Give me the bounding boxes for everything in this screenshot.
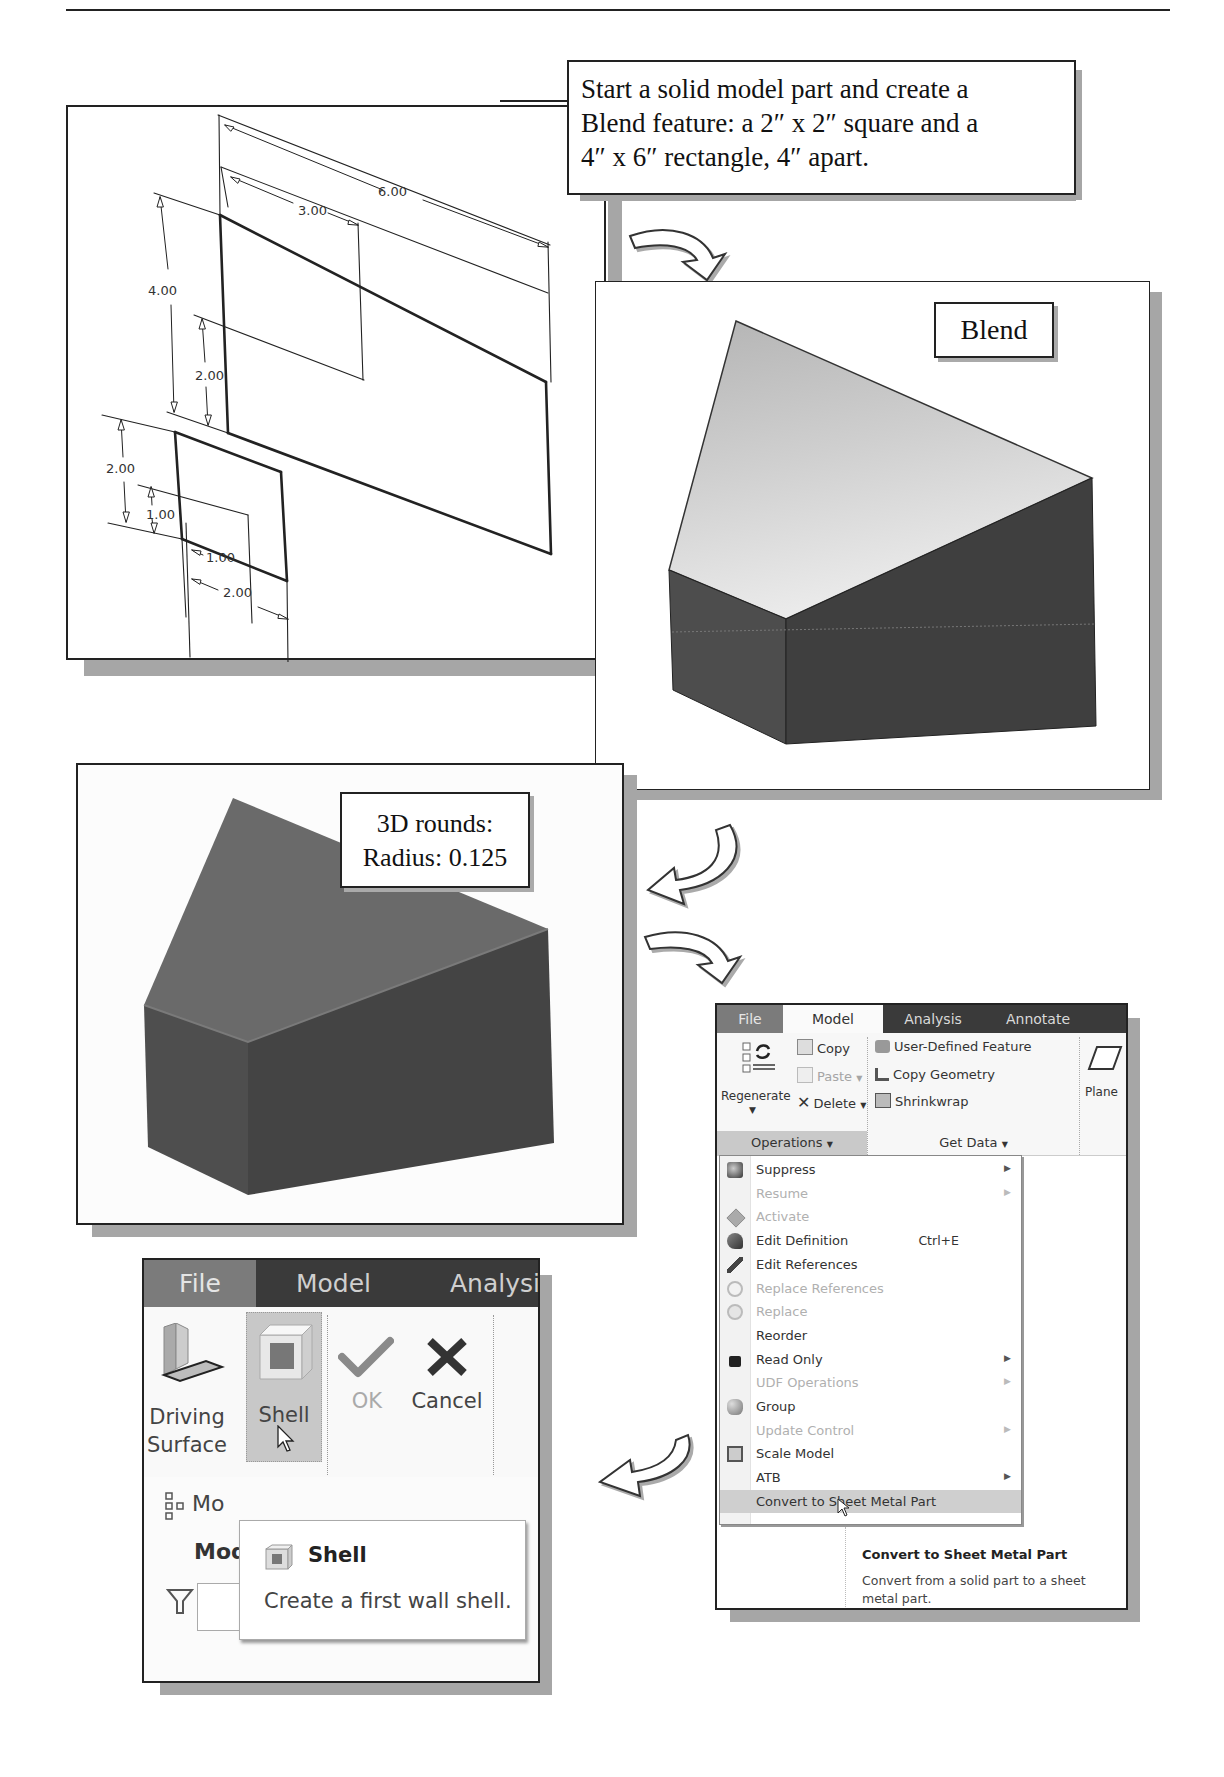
ribbon-screenshot: File Model Analysis Annotate Regenerate … (715, 1003, 1128, 1610)
menu-item-reorder[interactable]: Reorder (720, 1324, 1021, 1348)
driving-surface-button[interactable]: Driving Surface (148, 1313, 236, 1473)
edit-references-icon (727, 1257, 743, 1273)
tab-analysis[interactable]: Analysis (883, 1005, 983, 1033)
panel-shadow (730, 1608, 1140, 1622)
menu-item-replace[interactable]: Replace (720, 1300, 1021, 1324)
submenu-arrow-icon: ▶ (1004, 1187, 1011, 1197)
flow-arrow-icon (625, 222, 745, 288)
menu-item-replace-references[interactable]: Replace References (720, 1277, 1021, 1301)
activate-icon (726, 1209, 745, 1228)
tooltip-title: Convert to Sheet Metal Part (862, 1547, 1067, 1562)
menu-item-edit-references[interactable]: Edit References (720, 1253, 1021, 1277)
menu-item-update-control[interactable]: Update Control▶ (720, 1419, 1021, 1443)
tab-file[interactable]: File (717, 1005, 783, 1033)
plane-button[interactable]: Plane (1081, 1037, 1127, 1127)
menu-item-label: Resume (756, 1186, 808, 1201)
tab-model[interactable]: Model (783, 1005, 883, 1033)
lock-icon (729, 1356, 741, 1367)
menu-item-resume[interactable]: Resume▶ (720, 1182, 1021, 1206)
blend-label: Blend (936, 304, 1052, 356)
paste-button[interactable]: Paste ▼ (797, 1067, 862, 1084)
menu-item-label: Replace References (756, 1281, 884, 1296)
shrinkwrap-button[interactable]: Shrinkwrap (875, 1093, 968, 1109)
mouse-cursor-icon (277, 1425, 297, 1453)
menu-item-udf-operations[interactable]: UDF Operations▶ (720, 1371, 1021, 1395)
copy-geometry-label: Copy Geometry (893, 1067, 995, 1082)
menu-item-convert-to-sheet-metal-part[interactable]: Convert to Sheet Metal Part (720, 1490, 1021, 1514)
step1-callout: Start a solid model part and create a Bl… (567, 60, 1076, 195)
submenu-arrow-icon: ▶ (1004, 1376, 1011, 1386)
get-data-group-dropdown[interactable]: Get Data ▼ (868, 1131, 1079, 1155)
panel-shadow (608, 198, 622, 282)
copy-button[interactable]: Copy (797, 1039, 850, 1056)
tab-annotate[interactable]: Annotate (983, 1005, 1093, 1033)
tab-analysis[interactable]: Analysi (450, 1260, 540, 1307)
flow-arrow-icon (640, 925, 760, 995)
model-tree-tab[interactable]: Mo (192, 1491, 224, 1516)
menu-item-label: Update Control (756, 1423, 854, 1438)
shell-icon (256, 1321, 316, 1383)
user-defined-feature-icon (875, 1040, 890, 1053)
regenerate-dropdown-icon[interactable]: ▼ (749, 1105, 756, 1115)
convert-sheet-metal-tooltip: Convert to Sheet Metal Part Convert from… (845, 1527, 1128, 1609)
tooltip-title: Shell (308, 1543, 367, 1567)
group-divider (327, 1315, 328, 1475)
svg-text:2.00: 2.00 (106, 461, 135, 476)
model-tree-icon (164, 1491, 186, 1521)
edit-definition-icon (727, 1233, 743, 1249)
shell-button[interactable]: Shell (246, 1312, 322, 1462)
suppress-icon (727, 1162, 743, 1178)
group-divider (493, 1315, 494, 1475)
shrinkwrap-icon (875, 1093, 891, 1108)
shortcut-label: Ctrl+E (918, 1233, 959, 1248)
tab-file[interactable]: File (144, 1260, 256, 1307)
menu-item-label: UDF Operations (756, 1375, 859, 1390)
operations-group-label: Operations (751, 1135, 822, 1150)
menu-item-label: Edit References (756, 1257, 858, 1272)
close-icon (424, 1335, 470, 1379)
tab-model[interactable]: Model (296, 1260, 371, 1307)
filter-icon (166, 1587, 196, 1617)
operations-menu: Suppress▶ Resume▶ Activate Edit Definiti… (719, 1155, 1022, 1525)
copy-geometry-icon (875, 1068, 889, 1081)
svg-text:1.00: 1.00 (206, 550, 235, 565)
rounds-panel: 3D rounds: Radius: 0.125 (76, 763, 624, 1225)
step1-callout-line: Blend feature: a 2″ x 2″ square and a (581, 106, 978, 140)
delete-button[interactable]: ✕Delete ▼ (797, 1093, 866, 1112)
menu-item-suppress[interactable]: Suppress▶ (720, 1158, 1021, 1182)
checkmark-icon (338, 1335, 394, 1379)
menu-item-edit-definition[interactable]: Edit DefinitionCtrl+E (720, 1229, 1021, 1253)
menu-item-scale-model[interactable]: Scale Model (720, 1442, 1021, 1466)
copy-label: Copy (817, 1041, 850, 1056)
driving-surface-label: Surface (146, 1431, 228, 1459)
shrinkwrap-label: Shrinkwrap (895, 1094, 968, 1109)
replace-icon (727, 1304, 743, 1320)
panel-shadow (538, 1275, 552, 1695)
menu-item-read-only[interactable]: Read Only▶ (720, 1348, 1021, 1372)
regenerate-button[interactable]: Regenerate ▼ (721, 1037, 791, 1127)
regenerate-icon (741, 1041, 781, 1077)
submenu-arrow-icon: ▶ (1004, 1424, 1011, 1434)
copy-geometry-button[interactable]: Copy Geometry (875, 1067, 995, 1082)
mouse-cursor-icon (837, 1498, 851, 1518)
operations-group-dropdown[interactable]: Operations ▼ (717, 1131, 867, 1155)
blend-sketch-drawing: 6.00 3.00 4.00 2.00 2.00 1.00 1.00 2.00 (68, 107, 608, 662)
ok-button[interactable]: OK (332, 1315, 402, 1465)
chevron-down-icon: ▼ (827, 1140, 833, 1149)
rounds-label-line: Radius: 0.125 (342, 841, 528, 875)
shell-ribbon-tab-bar: File Model Analysi (144, 1260, 538, 1307)
cancel-button[interactable]: Cancel (402, 1315, 492, 1465)
user-defined-feature-button[interactable]: User-Defined Feature (875, 1039, 1031, 1054)
menu-item-group[interactable]: Group (720, 1395, 1021, 1419)
replace-references-icon (727, 1281, 743, 1297)
copy-icon (797, 1039, 813, 1055)
shell-ribbon-screenshot: File Model Analysi Driving Surface (142, 1258, 540, 1683)
menu-item-label: ATB (756, 1470, 781, 1485)
svg-text:3.00: 3.00 (298, 203, 327, 218)
menu-item-label: Scale Model (756, 1446, 834, 1461)
menu-item-activate[interactable]: Activate (720, 1205, 1021, 1229)
svg-text:1.00: 1.00 (146, 507, 175, 522)
user-defined-feature-label: User-Defined Feature (894, 1039, 1031, 1054)
menu-item-atb[interactable]: ATB▶ (720, 1466, 1021, 1490)
paste-icon (797, 1067, 813, 1083)
